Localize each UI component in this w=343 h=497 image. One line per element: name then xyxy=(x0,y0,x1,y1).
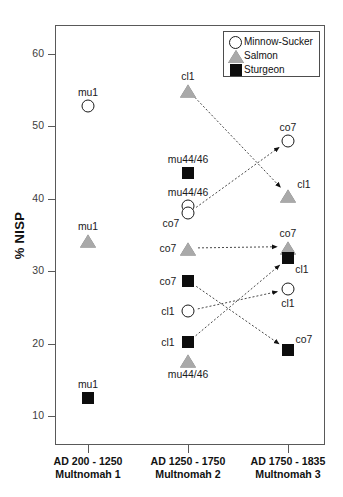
data-point-label: mu1 xyxy=(78,87,98,98)
x-category-period: AD 1250 - 1750 xyxy=(134,455,242,468)
data-point-label: mu44/46 xyxy=(168,187,208,198)
y-tick-40 xyxy=(48,199,55,200)
x-tick-0 xyxy=(88,445,89,453)
data-point-triangle[interactable] xyxy=(280,190,296,203)
data-point-label: mu1 xyxy=(78,378,98,389)
legend-item-triangle[interactable]: Salmon xyxy=(228,49,316,63)
x-category-phase: Multnomah 1 xyxy=(34,468,142,481)
x-tick-1 xyxy=(188,445,189,453)
y-tick-label: 40 xyxy=(4,192,44,204)
data-point-label: mu44/46 xyxy=(168,154,208,165)
legend-item-square[interactable]: Sturgeon xyxy=(228,63,316,77)
y-tick-label: 20 xyxy=(4,337,44,349)
data-point-label: co7 xyxy=(160,275,177,286)
y-tick-50 xyxy=(48,126,55,127)
x-category-period: AD 200 - 1250 xyxy=(34,455,142,468)
y-tick-label: 60 xyxy=(4,47,44,59)
x-tick-2 xyxy=(288,445,289,453)
data-point-triangle[interactable] xyxy=(180,243,196,256)
y-tick-10 xyxy=(48,416,55,417)
data-point-square[interactable] xyxy=(182,275,194,287)
data-point-label: cl1 xyxy=(281,298,294,309)
data-point-label: co7 xyxy=(280,227,297,238)
data-point-circle[interactable] xyxy=(282,283,295,296)
triangle-icon xyxy=(228,50,243,63)
y-tick-label: 10 xyxy=(4,409,44,421)
data-point-label: co7 xyxy=(296,334,313,345)
data-point-label: cl1 xyxy=(161,337,174,348)
data-point-square[interactable] xyxy=(182,336,194,348)
chart-root: % NISP 605040302010 mu1mu44/46co7cl1co7c… xyxy=(0,0,343,497)
x-category-label: AD 1750 - 1835Multnomah 3 xyxy=(234,455,342,481)
data-point-label: cl1 xyxy=(181,71,194,82)
data-point-circle[interactable] xyxy=(182,305,195,318)
legend-item-label: Salmon xyxy=(244,51,278,61)
x-category-label: AD 200 - 1250Multnomah 1 xyxy=(34,455,142,481)
y-tick-20 xyxy=(48,344,55,345)
data-point-label: co7 xyxy=(163,218,180,229)
data-point-circle[interactable] xyxy=(282,134,295,147)
legend-item-circle[interactable]: Minnow-Sucker xyxy=(228,35,316,49)
legend-item-label: Minnow-Sucker xyxy=(244,37,313,47)
data-point-label: cl1 xyxy=(297,179,310,190)
data-point-label: mu1 xyxy=(78,221,98,232)
data-point-triangle[interactable] xyxy=(80,235,96,248)
circle-icon xyxy=(228,36,243,49)
legend-item-label: Sturgeon xyxy=(244,65,285,75)
data-point-circle[interactable] xyxy=(82,100,95,113)
y-tick-30 xyxy=(48,271,55,272)
data-point-square[interactable] xyxy=(282,252,294,264)
data-point-label: mu44/46 xyxy=(168,368,208,379)
data-point-label: co7 xyxy=(280,121,297,132)
x-category-phase: Multnomah 2 xyxy=(134,468,242,481)
x-category-phase: Multnomah 3 xyxy=(234,468,342,481)
y-tick-60 xyxy=(48,54,55,55)
legend[interactable]: Minnow-SuckerSalmonSturgeon xyxy=(223,31,320,77)
data-point-label: co7 xyxy=(160,243,177,254)
data-point-square[interactable] xyxy=(182,167,194,179)
data-point-label: cl1 xyxy=(161,306,174,317)
data-point-triangle[interactable] xyxy=(180,85,196,98)
data-point-square[interactable] xyxy=(82,392,94,404)
data-point-label: cl1 xyxy=(295,264,308,275)
data-point-triangle[interactable] xyxy=(180,354,196,367)
data-point-circle[interactable] xyxy=(182,207,195,220)
square-icon xyxy=(228,64,243,76)
y-tick-label: 30 xyxy=(4,264,44,276)
data-point-square[interactable] xyxy=(282,344,294,356)
y-tick-label: 50 xyxy=(4,119,44,131)
x-category-period: AD 1750 - 1835 xyxy=(234,455,342,468)
x-category-label: AD 1250 - 1750Multnomah 2 xyxy=(134,455,242,481)
